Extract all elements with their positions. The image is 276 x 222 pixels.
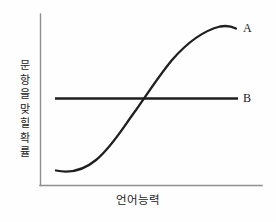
series-b-label: B [243,92,251,104]
y-axis-label-char: 항 [20,74,30,89]
plot-area [0,0,276,222]
y-axis-label-char: 문 [20,59,30,74]
y-axis-label-char: 을 [20,88,30,103]
y-axis-label-char: 힐 [20,117,30,132]
item-characteristic-curve-figure: 문 항 을 맞 힐 확 률 언어능력 A B [0,0,276,222]
y-axis-label-char: 맞 [20,103,30,118]
y-axis-label-char: 률 [20,146,30,161]
x-axis-label: 언어능력 [0,191,276,207]
series-a-label: A [243,22,252,34]
y-axis-label-char: 확 [20,132,30,147]
y-axis-label: 문 항 을 맞 힐 확 률 [14,45,36,175]
